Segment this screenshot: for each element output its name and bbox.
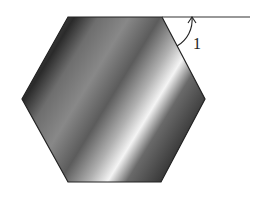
hexagon-figure: 1 [0, 0, 272, 198]
hexagon [22, 17, 205, 182]
angle-label: 1 [193, 35, 201, 52]
angle-arc [177, 17, 192, 46]
